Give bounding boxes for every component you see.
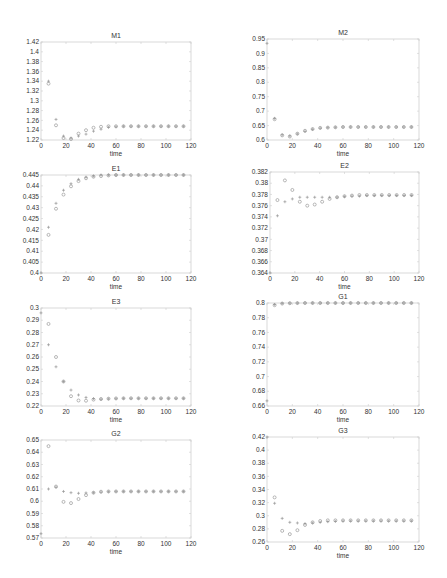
- x-tick-label: 60: [112, 142, 120, 149]
- y-tick-label: 0.37: [255, 236, 268, 243]
- y-tick-label: 0.366: [252, 258, 269, 265]
- x-tick-label: 60: [112, 275, 120, 282]
- y-tick-label: 0.7: [256, 107, 265, 114]
- y-tick-label: 0.9: [256, 50, 265, 57]
- y-tick-label: 0.41: [26, 247, 39, 254]
- plot-svg: E1020406080100120time0.40.4050.410.4150.…: [11, 161, 197, 295]
- y-tick-label: 1.38: [26, 58, 39, 65]
- y-tick-label: 0.34: [252, 486, 265, 493]
- x-tick-label: 100: [388, 544, 399, 551]
- plot-svg: M2020406080100120time0.60.650.70.750.80.…: [237, 25, 425, 162]
- subplot-title: G2: [111, 430, 120, 437]
- x-tick-label: 120: [414, 275, 425, 282]
- plot-svg: E2020406080100120time0.3640.3660.3680.37…: [240, 158, 425, 295]
- x-tick-label: 100: [389, 275, 400, 282]
- x-tick-label: 120: [414, 142, 425, 149]
- axes-frame: [41, 308, 191, 406]
- x-tick-label: 0: [265, 408, 269, 415]
- x-tick-label: 120: [186, 142, 197, 149]
- subplot-g3: G3020406080100120time0.260.280.30.320.34…: [237, 423, 425, 568]
- x-tick-label: 0: [39, 142, 43, 149]
- y-tick-label: 0.63: [26, 461, 39, 468]
- x-tick-label: 120: [414, 544, 425, 551]
- x-tick-label: 80: [137, 540, 145, 547]
- y-tick-label: 1.4: [30, 48, 39, 55]
- x-tick-label: 40: [87, 142, 95, 149]
- x-axis-label: time: [337, 416, 350, 423]
- y-tick-label: 0.42: [26, 226, 39, 233]
- x-tick-label: 100: [388, 142, 399, 149]
- y-tick-label: 1.28: [26, 107, 39, 114]
- y-tick-label: 0.57: [26, 534, 39, 541]
- x-tick-label: 0: [39, 540, 43, 547]
- axes-frame: [267, 39, 419, 140]
- y-tick-label: 0.95: [252, 35, 265, 42]
- y-tick-label: 0.378: [252, 191, 269, 198]
- x-axis-label: time: [110, 548, 123, 555]
- x-tick-label: 60: [112, 540, 120, 547]
- y-tick-label: 0.4: [256, 446, 265, 453]
- axes-frame: [270, 172, 419, 273]
- y-tick-label: 0.8: [256, 299, 265, 306]
- y-tick-label: 0.3: [30, 304, 39, 311]
- x-tick-label: 80: [137, 408, 145, 415]
- x-tick-label: 120: [186, 540, 197, 547]
- x-axis-label: time: [110, 416, 123, 423]
- x-axis-label: time: [337, 552, 350, 559]
- y-tick-label: 0.59: [26, 510, 39, 517]
- x-tick-label: 40: [87, 275, 95, 282]
- axes-frame: [267, 437, 419, 542]
- x-tick-label: 20: [291, 275, 299, 282]
- y-tick-label: 0.6: [256, 136, 265, 143]
- y-tick-label: 0.64: [26, 448, 39, 455]
- y-tick-label: 0.75: [252, 93, 265, 100]
- subplot-title: G1: [338, 293, 347, 300]
- y-tick-label: 1.22: [26, 136, 39, 143]
- x-tick-label: 120: [186, 275, 197, 282]
- y-tick-label: 0.42: [252, 433, 265, 440]
- x-tick-label: 60: [339, 142, 347, 149]
- y-tick-label: 0.405: [23, 258, 40, 265]
- y-tick-label: 0.76: [252, 329, 265, 336]
- y-tick-label: 0.7: [256, 373, 265, 380]
- y-tick-label: 1.24: [26, 126, 39, 133]
- y-tick-label: 0.29: [26, 316, 39, 323]
- y-tick-label: 0.376: [252, 202, 269, 209]
- y-tick-label: 0.26: [26, 353, 39, 360]
- x-tick-label: 20: [289, 408, 297, 415]
- y-tick-label: 0.24: [26, 378, 39, 385]
- x-tick-label: 100: [161, 540, 172, 547]
- x-tick-label: 0: [265, 142, 269, 149]
- subplot-e3: E3020406080100120time0.220.230.240.250.2…: [11, 294, 197, 432]
- subplot-e2: E2020406080100120time0.3640.3660.3680.37…: [240, 158, 425, 299]
- subplot-g2: G2020406080100120time0.570.580.590.60.61…: [11, 426, 197, 564]
- x-tick-label: 100: [161, 275, 172, 282]
- y-tick-label: 0.8: [256, 78, 265, 85]
- x-tick-label: 0: [39, 408, 43, 415]
- x-tick-label: 80: [365, 142, 373, 149]
- y-tick-label: 0.38: [255, 179, 268, 186]
- y-tick-label: 0.36: [252, 473, 265, 480]
- x-tick-label: 120: [414, 408, 425, 415]
- y-tick-label: 0.374: [252, 213, 269, 220]
- y-tick-label: 1.32: [26, 87, 39, 94]
- y-tick-label: 0.415: [23, 237, 40, 244]
- y-tick-label: 0.4: [30, 269, 39, 276]
- subplot-e1: E1020406080100120time0.40.4050.410.4150.…: [11, 161, 197, 299]
- subplot-title: G3: [338, 427, 347, 434]
- x-tick-label: 20: [62, 142, 70, 149]
- plot-svg: G1020406080100120time0.660.680.70.720.74…: [237, 289, 425, 428]
- y-tick-label: 0.22: [26, 402, 39, 409]
- subplot-m1: M1020406080100120time1.221.241.261.281.3…: [11, 28, 197, 166]
- x-tick-label: 0: [39, 275, 43, 282]
- x-tick-label: 60: [339, 544, 347, 551]
- plot-svg: G3020406080100120time0.260.280.30.320.34…: [237, 423, 425, 564]
- x-tick-label: 40: [314, 544, 322, 551]
- y-tick-label: 0.6: [30, 497, 39, 504]
- y-tick-label: 0.28: [26, 329, 39, 336]
- y-tick-label: 0.65: [252, 122, 265, 129]
- y-tick-label: 1.34: [26, 77, 39, 84]
- y-tick-label: 0.26: [252, 538, 265, 545]
- x-tick-label: 60: [112, 408, 120, 415]
- subplot-g1: G1020406080100120time0.660.680.70.720.74…: [237, 289, 425, 432]
